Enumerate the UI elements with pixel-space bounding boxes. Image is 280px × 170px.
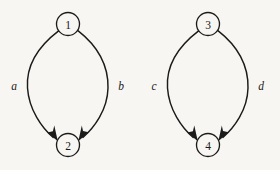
node-3[interactable]: 3 bbox=[197, 13, 220, 36]
graph-right: c d 3 4 bbox=[151, 13, 264, 157]
edge-b[interactable]: b bbox=[78, 30, 125, 141]
edge-a-path bbox=[27, 31, 58, 138]
node-2-label: 2 bbox=[65, 140, 71, 152]
node-2[interactable]: 2 bbox=[57, 134, 80, 157]
edge-c[interactable]: c bbox=[151, 31, 198, 141]
edge-a[interactable]: a bbox=[11, 31, 58, 141]
edge-b-arrowhead bbox=[78, 125, 88, 141]
edge-d-arrowhead bbox=[218, 125, 228, 141]
node-4-label: 4 bbox=[205, 140, 211, 152]
diagram-figure: a b 1 2 c bbox=[0, 0, 280, 170]
edge-c-path bbox=[167, 31, 198, 138]
node-1-label: 1 bbox=[65, 19, 71, 31]
edge-c-label: c bbox=[151, 80, 156, 92]
edge-a-arrowhead bbox=[47, 126, 58, 142]
graph-left: a b 1 2 bbox=[11, 13, 124, 157]
edge-d-label: d bbox=[258, 80, 264, 92]
edge-d-path bbox=[218, 30, 248, 137]
diagram-canvas: a b 1 2 c bbox=[0, 0, 280, 170]
node-1[interactable]: 1 bbox=[57, 13, 80, 36]
edge-d[interactable]: d bbox=[218, 30, 265, 141]
edge-b-label: b bbox=[118, 80, 124, 92]
node-4[interactable]: 4 bbox=[197, 134, 220, 157]
edge-c-arrowhead bbox=[187, 126, 198, 142]
node-3-label: 3 bbox=[205, 19, 211, 31]
edge-a-label: a bbox=[11, 80, 17, 92]
edge-b-path bbox=[78, 30, 108, 137]
